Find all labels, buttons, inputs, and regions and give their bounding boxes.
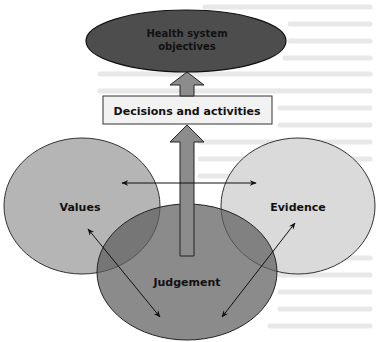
judgement-label: Judgement (152, 276, 220, 289)
evidence-label: Evidence (270, 201, 326, 214)
diagram-canvas: Decisions and activities Health system o… (0, 0, 377, 342)
objectives-label-line2: objectives (158, 41, 216, 52)
objectives-label-line1: Health system (146, 28, 227, 39)
values-label: Values (60, 201, 101, 214)
decisions-label: Decisions and activities (114, 105, 261, 118)
